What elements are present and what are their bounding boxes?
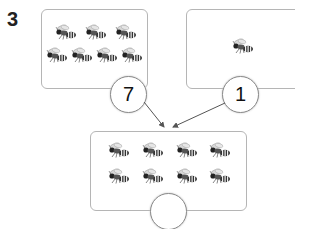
bee-icon (175, 142, 199, 158)
bee-icon (208, 142, 232, 158)
arrow-left (144, 102, 164, 127)
bee-icon (107, 168, 131, 184)
bee-icon (208, 168, 232, 184)
answer-circle-total[interactable] (150, 193, 187, 229)
bee-icon (107, 142, 131, 158)
arrow-right (173, 103, 225, 127)
bee-icon (141, 168, 165, 184)
bee-icon (175, 168, 199, 184)
bee-icon (141, 142, 165, 158)
